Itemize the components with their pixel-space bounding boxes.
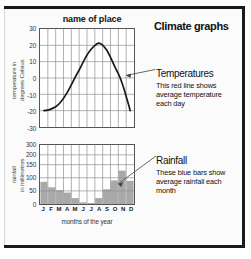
x-tick: J xyxy=(39,206,47,212)
rainfall-note-title: Rainfall xyxy=(156,155,187,166)
y-tick: -10 xyxy=(27,91,36,98)
y-tick: 20 xyxy=(29,41,36,48)
y-tick: 100 xyxy=(26,174,36,181)
y-tick: 10 xyxy=(29,58,36,65)
temperature-chart-title: name of place xyxy=(38,14,146,24)
y-tick: 50 xyxy=(29,187,36,194)
y-tick: 0 xyxy=(33,75,36,82)
rainfall-note-body: These blue bars show average rainfall ea… xyxy=(156,168,242,196)
y-tick: -30 xyxy=(27,125,36,132)
x-tick: A xyxy=(95,206,103,212)
rainfall-y-ticks: 300 200 150 100 50 0 xyxy=(20,144,36,204)
x-tick: O xyxy=(111,206,119,212)
x-tick: A xyxy=(63,206,71,212)
x-tick: S xyxy=(103,206,111,212)
x-tick: M xyxy=(55,206,63,212)
rainfall-x-ticks: J F M A M J J A S O N D xyxy=(39,206,135,212)
frame-left-edge xyxy=(4,6,5,245)
frame-top-edge xyxy=(4,6,242,9)
x-tick: M xyxy=(71,206,79,212)
temperatures-note-title: Temperatures xyxy=(156,68,214,79)
temperature-y-ticks: 30 20 10 0 -10 -20 -30 xyxy=(20,28,36,128)
y-tick: -20 xyxy=(27,108,36,115)
x-tick: J xyxy=(79,206,87,212)
y-tick: 30 xyxy=(29,25,36,32)
charts-column: name of place temperature in degrees Cel… xyxy=(8,12,148,237)
x-tick: F xyxy=(47,206,55,212)
rainfall-x-axis-label: months of the year xyxy=(39,218,135,225)
y-tick: 150 xyxy=(26,161,36,168)
poster-heading: Climate graphs xyxy=(154,20,229,32)
x-tick: N xyxy=(119,206,127,212)
y-tick: 0 xyxy=(33,201,36,208)
temperatures-note-body: This red line shows average temperature … xyxy=(156,81,236,109)
rainfall-plot-svg xyxy=(40,145,134,204)
frame-bottom-edge xyxy=(4,245,245,248)
x-tick: D xyxy=(127,206,135,212)
frame-right-edge xyxy=(242,6,245,245)
rainfall-plot-area xyxy=(39,144,135,205)
notes-column: Climate graphs Temperatures This red lin… xyxy=(152,12,240,237)
y-tick: 200 xyxy=(26,151,36,158)
temperature-plot-svg xyxy=(40,29,134,127)
temperature-plot-area xyxy=(39,28,135,128)
y-tick: 300 xyxy=(26,141,36,148)
climate-graphs-poster: name of place temperature in degrees Cel… xyxy=(0,0,251,259)
x-tick: J xyxy=(87,206,95,212)
